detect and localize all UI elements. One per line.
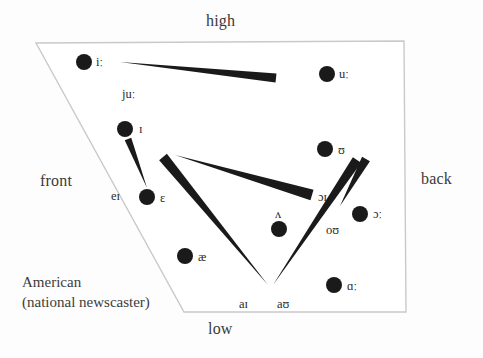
vowel-dot: [319, 66, 335, 82]
vowel-symbol-label: ʌ: [275, 207, 281, 222]
diphthong-symbol-label: juː: [122, 87, 135, 102]
diphthong-symbol-label: oʊ: [326, 223, 339, 238]
axis-label-back: back: [421, 170, 452, 188]
vowel-dot: [117, 121, 133, 137]
vowel-symbol-label: iː: [96, 55, 103, 70]
vowel-symbol-label: ɪ: [139, 122, 142, 137]
vowel-chart-figure: high low front back American (national n…: [0, 0, 483, 358]
axis-label-front: front: [40, 172, 72, 190]
vowel-dot: [76, 54, 92, 70]
caption-dialect-name: American: [22, 274, 81, 291]
vowel-symbol-label: ʊ: [338, 143, 345, 158]
vowel-dot: [177, 248, 193, 264]
vowel-dot: [352, 206, 368, 222]
vowel-dot: [271, 221, 287, 237]
vowel-dot: [317, 141, 333, 157]
vowel-symbol-label: æ: [198, 250, 206, 265]
vowel-symbol-label: ɔː: [373, 207, 382, 222]
vowel-symbol-label: ɑː: [347, 279, 357, 294]
diphthong-symbol-label: aʊ: [277, 297, 289, 312]
vowel-dot: [139, 189, 155, 205]
caption-dialect-qualifier: (national newscaster): [22, 294, 150, 311]
diphthong-symbol-label: eɪ: [111, 189, 120, 204]
diphthong-symbol-label: ɔɪ: [318, 190, 327, 205]
vowel-symbol-label: ɛ: [160, 191, 165, 206]
vowel-symbol-label: uː: [339, 67, 349, 82]
axis-label-low: low: [208, 320, 233, 338]
diphthong-symbol-label: aɪ: [239, 297, 248, 312]
axis-label-high: high: [206, 12, 235, 30]
vowel-dot: [326, 277, 342, 293]
